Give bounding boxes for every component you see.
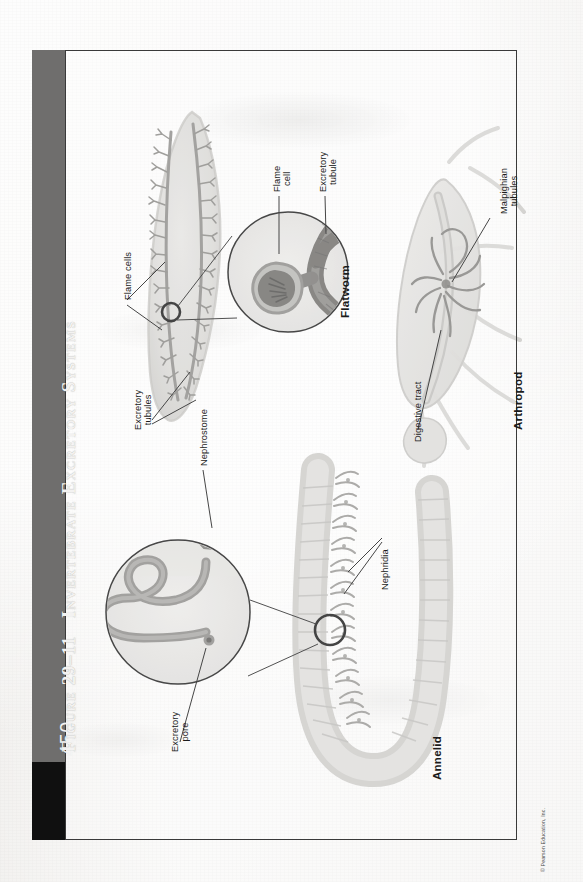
label-flame-cell: Flame cell [272,166,293,192]
page-number-box [32,762,65,840]
figure-title-text: Invertebrate Excretory Systems [58,320,79,618]
label-flatworm-heading: Flatworm [340,265,350,318]
label-nephrostome: Nephrostome [199,409,209,466]
figure-title: Figure 29–11 Invertebrate Excretory Syst… [58,320,80,752]
label-digestive-tract: Digestive tract [413,382,423,442]
label-malpighian-tubules: Malpighian tubules [499,168,520,214]
label-nephridia: Nephridia [380,549,390,590]
figure-prefix: Figure [58,691,79,752]
label-excretory-tubule: Excretory tubule [318,152,339,192]
copyright-notice: © Pearson Education, Inc. [540,808,546,872]
figure-number: 29–11 [58,636,79,685]
label-arthropod-heading: Arthropod [513,372,523,430]
label-flame-cells: Flame cells [123,252,133,300]
label-excretory-pore: Excretory pore [170,712,191,752]
label-annelid-heading: Annelid [432,736,442,780]
label-excretory-tubules: Excretory tubules [133,390,154,430]
